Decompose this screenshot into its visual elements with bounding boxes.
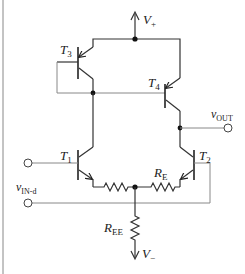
svg-text:V−: V− (142, 246, 155, 263)
input-terminal-t1[interactable] (24, 159, 32, 167)
resistor-re-left (93, 183, 150, 191)
transistor-t3: T3 (57, 42, 93, 93)
vout-sub: OUT (216, 114, 233, 123)
transistor-t4: T4 (148, 75, 180, 147)
top-rail-wire (93, 39, 180, 78)
input-terminal-vin-d[interactable] (24, 199, 32, 207)
t2-sub: 2 (206, 155, 211, 165)
svg-text:REE: REE (103, 220, 123, 237)
vminus-sub: − (150, 253, 155, 263)
svg-text:T1: T1 (60, 148, 72, 165)
output-terminal[interactable] (224, 124, 232, 132)
svg-text:vIN-d: vIN-d (16, 180, 36, 196)
svg-text:V+: V+ (143, 12, 156, 29)
resistor-re-right (150, 183, 180, 191)
resistor-ree (131, 187, 139, 258)
t1-sub: 1 (67, 155, 72, 165)
transistor-t2: T2 (32, 147, 211, 203)
re-label: R (153, 165, 162, 180)
transistor-t1: T1 (24, 147, 93, 187)
ree-label: R (103, 220, 112, 235)
differential-amplifier-schematic: V+ T3 T4 vOUT T1 (0, 0, 245, 274)
svg-text:T4: T4 (148, 75, 160, 92)
emitter-network: RE (93, 165, 180, 191)
tail-resistor: REE V− (103, 187, 155, 263)
vplus-sub: + (151, 19, 156, 29)
re-sub: E (162, 172, 168, 182)
svg-text:RE: RE (153, 165, 168, 182)
t4-sub: 4 (155, 82, 160, 92)
output-node: vOUT (178, 107, 233, 132)
vin-d-sub: IN-d (21, 187, 36, 196)
supply-positive: V+ (131, 12, 156, 39)
svg-text:T3: T3 (60, 42, 72, 59)
ree-sub: EE (112, 227, 123, 237)
svg-text:T2: T2 (199, 148, 211, 165)
vplus-junction-dot (132, 36, 137, 41)
t3-sub: 3 (67, 49, 72, 59)
svg-text:vOUT: vOUT (211, 107, 233, 123)
